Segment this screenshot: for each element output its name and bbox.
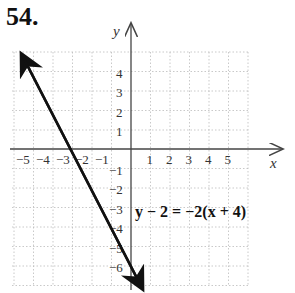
svg-text:−1: −1	[109, 163, 123, 178]
svg-text:1: 1	[116, 124, 123, 139]
svg-text:−1: −1	[95, 152, 109, 167]
equation-label: y − 2 = −2(x + 4)	[135, 203, 246, 221]
y-axis-label: y	[111, 23, 120, 39]
y-tick-labels: 4 3 2 1 −1 −2 −3 −4 −5 −6	[109, 66, 123, 275]
svg-text:−6: −6	[109, 260, 123, 275]
coordinate-graph: x y −5 −4 −3 −2 −1 1 2 3 4 5 4 3 2 1 −1 …	[0, 0, 295, 293]
svg-text:−4: −4	[36, 152, 50, 167]
x-axis-label: x	[269, 155, 277, 171]
svg-text:2: 2	[166, 152, 173, 167]
svg-text:3: 3	[116, 85, 123, 100]
svg-text:−5: −5	[16, 152, 30, 167]
svg-text:3: 3	[186, 152, 193, 167]
svg-text:2: 2	[116, 105, 123, 120]
svg-text:−3: −3	[56, 152, 70, 167]
svg-text:−3: −3	[109, 202, 123, 217]
svg-text:4: 4	[205, 152, 212, 167]
svg-text:4: 4	[116, 66, 123, 81]
svg-text:1: 1	[147, 152, 154, 167]
svg-text:5: 5	[225, 152, 232, 167]
svg-text:−2: −2	[109, 182, 123, 197]
plotted-line-arrow-bottom	[22, 55, 142, 288]
x-tick-labels: −5 −4 −3 −2 −1 1 2 3 4 5	[16, 152, 231, 167]
